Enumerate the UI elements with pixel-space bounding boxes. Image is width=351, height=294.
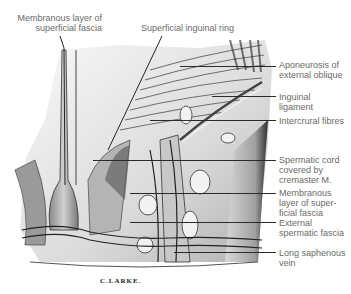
leader-aponeurosis xyxy=(180,66,276,67)
label-intercrural-fibres: Intercrural fibres xyxy=(279,116,344,126)
label-aponeurosis: Aponeurosis of external oblique xyxy=(279,60,343,80)
label-long-saphenous-vein: Long saphenous vein xyxy=(279,248,346,268)
label-inguinal-ligament: Inguinal ligament xyxy=(279,92,313,112)
anatomy-illustration: Membranous layer of superficial fascia S… xyxy=(0,0,351,294)
label-external-spermatic-fascia: External spermatic fascia xyxy=(279,218,344,238)
leader-long-saphenous-vein xyxy=(174,252,276,253)
label-superficial-inguinal-ring: Superficial inguinal ring xyxy=(141,23,234,33)
label-spermatic-cord: Spermatic cord covered by cremaster M. xyxy=(279,155,340,185)
label-membranous-layer-right: Membranous layer of super- ficial fascia xyxy=(279,188,337,218)
leader-external-spermatic-fascia xyxy=(130,222,276,223)
leader-inguinal-ligament xyxy=(212,96,276,97)
leader-spermatic-cord xyxy=(93,160,276,161)
leader-membranous-layer-right xyxy=(130,193,276,194)
artist-signature: C.LARKE. xyxy=(100,277,141,285)
label-membranous-layer-top: Membranous layer of superficial fascia xyxy=(12,13,102,33)
leader-intercrural-fibres xyxy=(150,120,276,121)
